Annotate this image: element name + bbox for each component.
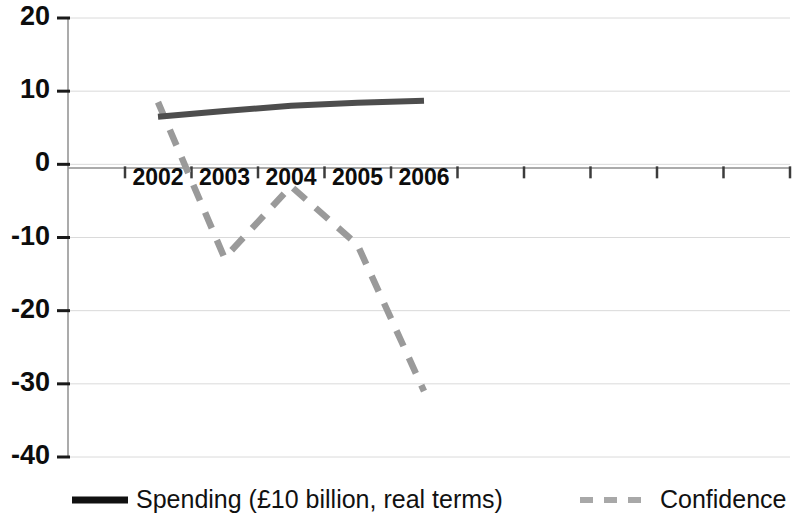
line-chart: 20100-10-20-30-40 20022003200420052006 S… [0, 0, 792, 516]
y-axis-tick-label: -40 [11, 440, 50, 470]
x-axis-tick-label: 2002 [132, 164, 183, 190]
legend-label-spending: Spending (£10 billion, real terms) [136, 485, 503, 513]
chart-container: 20100-10-20-30-40 20022003200420052006 S… [0, 0, 792, 516]
legend: Spending (£10 billion, real terms) Confi… [72, 485, 786, 513]
series-line-spending [158, 101, 424, 117]
x-axis-tick-label: 2006 [398, 164, 449, 190]
y-axis-tick-label: -10 [11, 221, 50, 251]
x-axis-tick-labels: 20022003200420052006 [132, 164, 449, 190]
y-axis-tick-labels: 20100-10-20-30-40 [11, 1, 50, 470]
series-line-confidence [158, 102, 424, 391]
x-axis-tick-label: 2005 [332, 164, 383, 190]
y-axis-tick-label: 20 [20, 1, 50, 31]
y-axis-tick-label: 0 [35, 147, 50, 177]
y-axis-tick-label: -30 [11, 367, 50, 397]
y-axis-tick-label: 10 [20, 74, 50, 104]
x-axis-tick-label: 2004 [265, 164, 316, 190]
x-axis-tick-label: 2003 [199, 164, 250, 190]
legend-label-confidence: Confidence [660, 485, 786, 513]
gridlines [68, 18, 790, 457]
y-axis-tick-label: -20 [11, 294, 50, 324]
